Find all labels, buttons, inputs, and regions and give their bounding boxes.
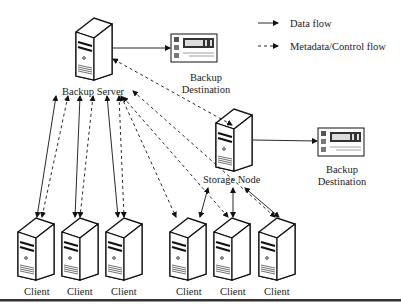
backup-destination-1-line2: Destination [182, 84, 231, 95]
client-icon [62, 218, 98, 280]
tape-library-icon [318, 128, 364, 156]
client-label: Client [67, 286, 93, 297]
client-6: Client [259, 218, 295, 297]
data-flow-storage-to-destination [253, 140, 317, 141]
backup-destination-2-line2: Destination [318, 176, 367, 187]
client-label: Client [264, 286, 290, 297]
client-1: Client [18, 218, 54, 297]
legend-metadata-flow-label: Metadata/Control flow [290, 41, 386, 52]
client-4: Client [170, 218, 206, 297]
legend: Data flow Metadata/Control flow [258, 18, 386, 52]
client-label: Client [24, 286, 50, 297]
client-icon [170, 218, 206, 280]
client-3: Client [106, 218, 142, 297]
backup-destination-1: Backup Destination [171, 34, 231, 95]
client-label: Client [176, 286, 202, 297]
legend-data-flow-label: Data flow [290, 18, 332, 29]
client-icon [214, 218, 250, 280]
client-icon [259, 218, 295, 280]
client-icon [18, 218, 54, 280]
tape-library-icon [171, 34, 217, 62]
backup-destination-1-line1: Backup [190, 72, 222, 83]
client-label: Client [111, 286, 137, 297]
client-2: Client [62, 218, 98, 297]
backup-destination-2: Backup Destination [318, 128, 367, 187]
backup-server-label: Backup Server [62, 86, 125, 97]
bottom-rule [0, 299, 401, 302]
client-5: Client [214, 218, 250, 297]
storage-node: Storage Node [203, 109, 261, 185]
backup-architecture-diagram: Data flow Metadata/Control flow Backup S… [0, 0, 401, 307]
client-storage-flows [200, 188, 279, 217]
server-icon [76, 18, 112, 80]
backup-server-node: Backup Server [62, 18, 125, 97]
backup-destination-2-line1: Backup [326, 164, 358, 175]
client-label: Client [220, 286, 246, 297]
server-icon [216, 109, 252, 171]
storage-node-label: Storage Node [203, 174, 261, 185]
client-icon [106, 218, 142, 280]
